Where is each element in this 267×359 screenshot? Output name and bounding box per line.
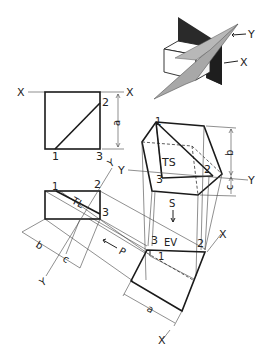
fold-y-bottom: Y	[37, 275, 49, 289]
top-view: 1 2 3 TL Y Y b c P	[22, 156, 128, 289]
ts-point-1: 1	[155, 116, 161, 127]
true-shape-view: TS 1 2 3 Y Y b c S	[117, 116, 255, 222]
top-point-1: 1	[52, 181, 58, 192]
dim-c-top: c	[61, 253, 71, 265]
dim-a-ev: a	[145, 303, 156, 316]
dim-a-front: a	[111, 120, 122, 126]
point-1-label: 1	[52, 150, 59, 163]
fold-x-ev-top: X	[219, 228, 227, 241]
fold-y-left: Y	[117, 164, 125, 177]
label-plane-x: X	[240, 56, 248, 69]
fold-label-x-right: X	[126, 86, 134, 99]
fold-x-ev-bottom: X	[158, 334, 166, 347]
descriptive-geometry-diagram: Y X X X 2 1 3 a TS 1 2 3 Y Y	[0, 0, 267, 359]
front-view: X X 2 1 3 a	[17, 86, 134, 163]
label-plane-y: Y	[247, 28, 255, 41]
top-point-3: 3	[102, 206, 109, 219]
ts-point-2: 2	[204, 163, 211, 176]
ev-point-2: 2	[197, 237, 204, 250]
fold-y-right: Y	[247, 174, 255, 187]
ev-point-3: 3	[151, 234, 158, 247]
edge-view: 3 EV 2 1 X X a	[123, 228, 227, 347]
fold-y-top: Y	[105, 156, 117, 170]
top-point-2: 2	[94, 178, 101, 191]
fold-label-x-left: X	[17, 86, 25, 99]
ts-point-3: 3	[156, 173, 163, 186]
label-ev: EV	[164, 237, 177, 248]
point-2-label: 2	[102, 96, 109, 109]
label-ts: TS	[161, 156, 176, 169]
front-view-square	[45, 92, 100, 149]
pictorial-view: Y X	[154, 17, 255, 99]
dim-b-ts: b	[224, 150, 235, 156]
arrow-label-s: S	[169, 198, 175, 209]
ev-point-1: 1	[158, 251, 164, 262]
line-1-2	[55, 103, 100, 149]
dim-c-ts: c	[224, 185, 235, 191]
point-3-label: 3	[96, 150, 103, 163]
arrow-label-p: P	[117, 245, 128, 258]
